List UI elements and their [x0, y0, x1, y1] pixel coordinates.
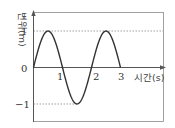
x-axis-label: 시간(s) — [134, 72, 164, 83]
y-tick-minus-1: −1 — [15, 99, 30, 110]
y-axis-arrow-icon — [31, 10, 35, 16]
x-tick-2: 2 — [93, 71, 99, 82]
y-tick-0: 0 — [21, 63, 27, 74]
y-axis-label: 변위(m) — [17, 12, 28, 47]
x-tick-3: 3 — [118, 71, 124, 82]
x-tick-1: 1 — [57, 71, 63, 82]
displacement-time-chart: 1 0 −1 1 2 3 시간(s) 변위(m) — [0, 0, 175, 128]
x-axis-arrow-icon — [160, 65, 166, 69]
